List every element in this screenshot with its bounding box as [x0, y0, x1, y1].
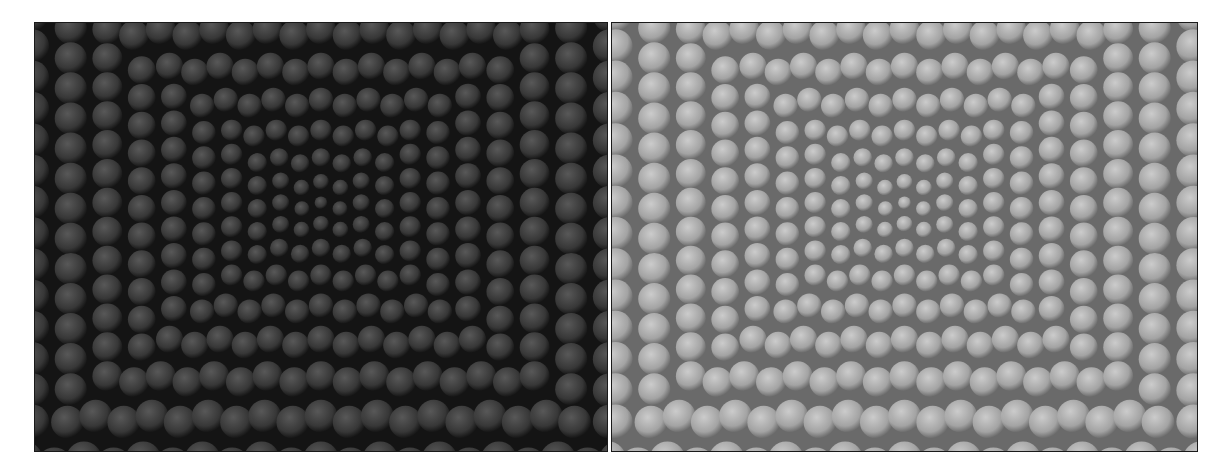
dark-sphere-grid-image [34, 22, 608, 452]
sphere-grid-dark [35, 23, 607, 451]
sphere-grid-bright [612, 23, 1197, 451]
bright-sphere-grid-image [611, 22, 1198, 452]
